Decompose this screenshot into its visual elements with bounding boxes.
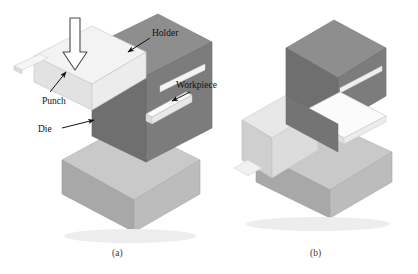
shadow-b [246,217,390,231]
figure-root: Punch Holder Workpiece Die (a) [0,0,418,274]
label-group-die-a: Die [38,120,94,134]
forming-process-diagram: Punch Holder Workpiece Die (a) [0,0,418,274]
caption-panel-b: (b) [310,248,321,259]
panel-b: (b) [234,20,392,259]
shadow-a [64,229,196,243]
label-die: Die [38,124,52,134]
panel-a: Punch Holder Workpiece Die (a) [14,14,217,259]
label-holder: Holder [152,28,179,38]
label-punch: Punch [42,96,66,106]
leader-arrow-icon-die [62,120,94,128]
caption-panel-a: (a) [112,248,123,259]
label-workpiece: Workpiece [176,80,217,90]
